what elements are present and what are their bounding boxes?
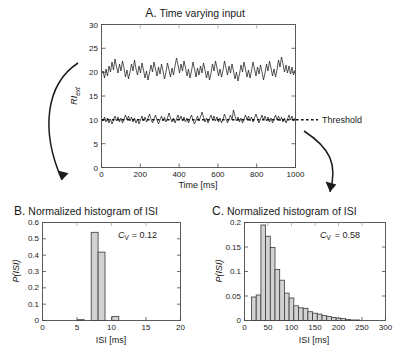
trace-lower xyxy=(102,110,296,124)
bar-c-12 xyxy=(308,312,313,321)
bar-b-3 xyxy=(98,252,105,320)
panel-a-xtick-4: 800 xyxy=(250,170,264,179)
panel-c-xlabel: ISI [ms] xyxy=(299,335,330,345)
panel-a-title-text: Time varying input xyxy=(159,7,244,19)
panel-a-ylabel-sub: ext xyxy=(74,86,81,96)
panel-a-xtick-0: 0 xyxy=(99,170,104,179)
panel-c-xtick-1: 50 xyxy=(264,323,273,332)
bar-c-11 xyxy=(303,308,308,320)
bar-c-22 xyxy=(355,320,360,321)
panel-c-xtick-4: 200 xyxy=(332,323,346,332)
panel-c-ytick-0: 0 xyxy=(237,316,242,325)
panel-b-ytick-4: 0.4 xyxy=(28,251,40,260)
bar-c-14 xyxy=(317,314,322,320)
panel-b-x-ticks xyxy=(43,223,181,321)
panel-b-xtick-4: 20 xyxy=(176,323,185,332)
panel-c-label: C. xyxy=(212,204,224,218)
panel-c-ytick-2: 0.1 xyxy=(230,267,242,276)
panel-a-ytick-0: 0 xyxy=(94,164,99,173)
panel-b-title: B.Normalized histogram of ISI xyxy=(14,204,158,218)
bar-c-10 xyxy=(299,308,304,321)
panel-b-title-text: Normalized histogram of ISI xyxy=(28,205,158,217)
figure-svg: A.Time varying input 0 5 10 15 20 25 30 xyxy=(0,0,398,361)
panel-a-ytick-1: 5 xyxy=(94,140,99,149)
bar-c-0 xyxy=(252,297,257,321)
panel-a-ytick-5: 25 xyxy=(89,44,98,53)
panel-b-ytick-2: 0.2 xyxy=(28,283,40,292)
svg-text:P(ISI): P(ISI) xyxy=(214,259,224,282)
panel-a-ytick-3: 15 xyxy=(89,92,98,101)
bar-c-20 xyxy=(346,320,351,321)
bar-b-0 xyxy=(77,320,84,321)
threshold-label: Threshold xyxy=(322,115,362,125)
panel-c-ytick-1: 0.05 xyxy=(225,292,241,301)
panel-b-ytick-0: 0 xyxy=(35,316,40,325)
panel-b-ytick-3: 0.3 xyxy=(28,267,40,276)
bar-c-4 xyxy=(270,248,275,321)
panel-a-traces xyxy=(102,57,296,124)
bar-b-5 xyxy=(112,317,119,321)
panel-a-label: A. xyxy=(145,6,156,20)
figure-root: A.Time varying input 0 5 10 15 20 25 30 xyxy=(0,0,398,361)
panel-b-ytick-6: 0.6 xyxy=(28,218,40,227)
panel-b-y-ticks xyxy=(43,223,181,321)
panel-c-xtick-2: 100 xyxy=(285,323,299,332)
arrow-to-panel-c xyxy=(304,131,336,192)
panel-c-xtick-6: 300 xyxy=(379,323,393,332)
panel-a-ytick-2: 10 xyxy=(89,116,98,125)
panel-c-title: C.Normalized histogram of ISI xyxy=(212,204,357,218)
panel-c: C.Normalized histogram of ISI 0 0.05 0.1… xyxy=(212,204,393,345)
panel-c-xtick-0: 0 xyxy=(242,323,247,332)
panel-a-xtick-3: 600 xyxy=(211,170,225,179)
arrow-to-panel-b xyxy=(49,63,78,180)
panel-b-xtick-0: 0 xyxy=(40,323,45,332)
bar-c-1 xyxy=(256,295,261,321)
panel-a-title: A.Time varying input xyxy=(145,6,245,20)
panel-a-frame xyxy=(102,25,296,168)
panel-a-ytick-6: 30 xyxy=(89,21,98,30)
panel-b-xtick-3: 15 xyxy=(142,323,151,332)
panel-c-ytick-4: 0.2 xyxy=(230,218,242,227)
panel-c-ytick-3: 0.15 xyxy=(225,243,241,252)
bar-c-17 xyxy=(331,318,336,321)
bar-c-15 xyxy=(322,316,327,321)
panel-c-annotation: CV= 0.58 xyxy=(320,230,360,241)
panel-a-ytick-4: 20 xyxy=(89,68,98,77)
svg-text:P(ISI): P(ISI) xyxy=(11,259,21,282)
bar-c-8 xyxy=(289,298,294,321)
panel-a-y-ticks xyxy=(102,25,296,168)
panel-b-ytick-5: 0.5 xyxy=(28,234,40,243)
trace-upper xyxy=(102,57,296,81)
panel-b-ytick-1: 0.1 xyxy=(28,300,40,309)
bar-c-16 xyxy=(327,317,332,321)
panel-b-annotation: CV= 0.12 xyxy=(118,230,157,241)
panel-a-xtick-5: 1000 xyxy=(287,170,305,179)
bar-c-7 xyxy=(284,293,289,320)
panel-a-x-ticks xyxy=(102,25,296,168)
panel-b-xtick-1: 5 xyxy=(75,323,80,332)
panel-a-ylabel: RIext xyxy=(69,86,81,105)
bar-c-6 xyxy=(280,280,285,320)
bar-c-13 xyxy=(313,313,318,320)
bar-c-5 xyxy=(275,270,280,321)
panel-b-frame xyxy=(43,223,181,321)
panel-b-label: B. xyxy=(14,204,25,218)
panel-c-xtick-3: 150 xyxy=(308,323,322,332)
panel-a: A.Time varying input 0 5 10 15 20 25 30 xyxy=(69,6,362,190)
bar-c-3 xyxy=(266,236,271,320)
panel-b-bars xyxy=(77,232,118,320)
bar-c-2 xyxy=(261,225,266,321)
panel-c-ylabel: P(ISI) xyxy=(214,259,224,282)
bar-c-19 xyxy=(341,319,346,321)
bar-c-21 xyxy=(350,320,355,321)
svg-text:RIext: RIext xyxy=(69,86,81,105)
panel-c-title-text: Normalized histogram of ISI xyxy=(227,205,357,217)
panel-a-xtick-2: 400 xyxy=(172,170,186,179)
panel-b-xlabel: ISI [ms] xyxy=(96,335,127,345)
panel-b: B.Normalized histogram of ISI 0 0.1 0.2 … xyxy=(11,204,185,345)
panel-a-xtick-1: 200 xyxy=(134,170,148,179)
panel-b-ylabel: P(ISI) xyxy=(11,259,21,282)
panel-b-xtick-2: 10 xyxy=(107,323,116,332)
panel-c-xtick-5: 250 xyxy=(355,323,369,332)
bar-b-2 xyxy=(91,232,98,320)
